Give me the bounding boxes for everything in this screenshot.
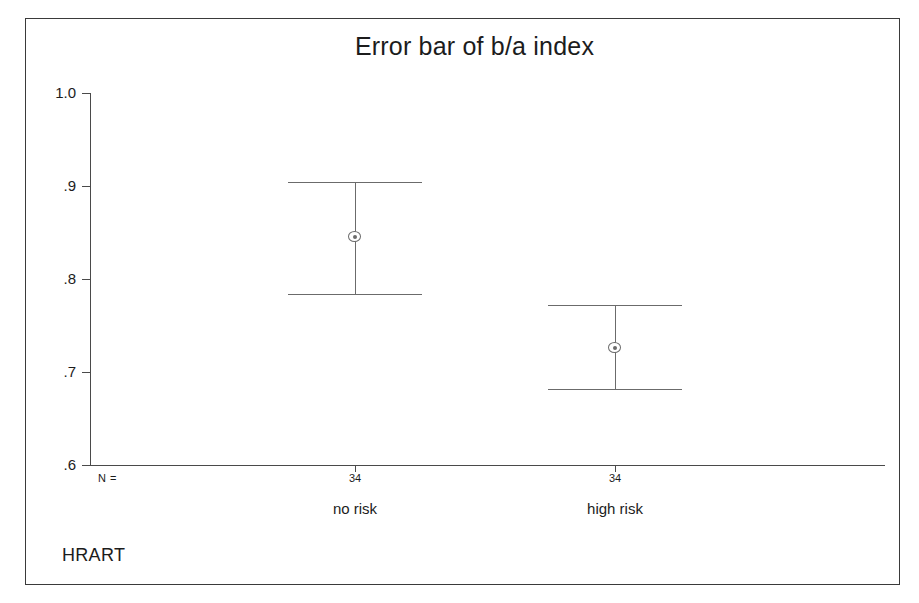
x-axis-category-label-no-risk: no risk <box>285 500 425 517</box>
figure-frame-border <box>25 18 900 585</box>
n-value-no-risk: 34 <box>315 472 395 484</box>
errorbar-mean-marker-dot-no-risk <box>353 235 357 239</box>
y-axis-tick-0.8 <box>82 279 91 280</box>
n-equals-label: N = <box>98 472 117 484</box>
y-axis-tick-label-0.9: .9 <box>30 178 76 193</box>
errorbar-lower-cap-high-risk <box>548 389 682 390</box>
y-axis-tick-label-0.7: .7 <box>30 364 76 379</box>
x-axis-line <box>90 465 885 466</box>
y-axis-tick-label-wrap-2: .8 <box>26 271 76 287</box>
y-axis-tick-label-wrap-0: 1.0 <box>26 85 76 101</box>
errorbar-mean-marker-dot-high-risk <box>613 346 617 350</box>
chart-title: Error bar of b/a index <box>0 32 919 61</box>
x-axis-tick-high-risk <box>615 465 616 472</box>
y-axis-tick-1.0 <box>82 93 91 94</box>
x-axis-tick-no-risk <box>355 465 356 472</box>
y-axis-tick-label-wrap-1: .9 <box>26 178 76 194</box>
y-axis-tick-label-0.8: .8 <box>30 271 76 286</box>
figure-canvas: Error bar of b/a index 1.0 .9 .8 .7 .6 <box>0 0 919 603</box>
errorbar-mean-marker-high-risk <box>608 342 621 353</box>
y-axis-tick-label-0.6: .6 <box>30 457 76 472</box>
y-axis-tick-label-wrap-3: .7 <box>26 364 76 380</box>
n-value-high-risk: 34 <box>575 472 655 484</box>
errorbar-lower-cap-no-risk <box>288 294 422 295</box>
errorbar-mean-marker-no-risk <box>348 231 361 242</box>
y-axis-tick-0.7 <box>82 372 91 373</box>
y-axis-tick-label-wrap-4: .6 <box>26 457 76 473</box>
footer-variable-label: HRART <box>62 545 125 566</box>
y-axis-tick-0.9 <box>82 186 91 187</box>
x-axis-category-label-high-risk: high risk <box>545 500 685 517</box>
y-axis-tick-label-1.0: 1.0 <box>30 85 76 100</box>
y-axis-tick-0.6 <box>82 465 91 466</box>
